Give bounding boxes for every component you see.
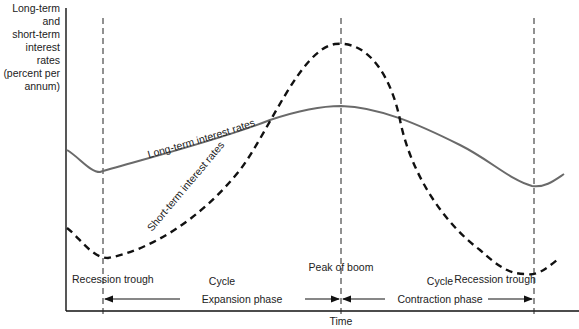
peak-label: Peak of boom: [309, 261, 374, 273]
x-axis-label: Time: [330, 315, 353, 327]
business-cycle-diagram: Long-term interest rates Short-term inte…: [0, 0, 579, 329]
expansion-cycle-label: Cycle: [209, 275, 235, 287]
trough-left-label: Recession trough: [72, 273, 154, 285]
long-term-rate-curve: [67, 106, 564, 186]
trough-right-label: Recession trough: [454, 273, 536, 285]
contraction-cycle-label: Cycle: [427, 275, 453, 287]
expansion-phase-label: Expansion phase: [202, 293, 283, 305]
contraction-phase-label: Contraction phase: [397, 293, 482, 305]
long-term-curve-label: Long-term interest rates: [146, 116, 256, 160]
